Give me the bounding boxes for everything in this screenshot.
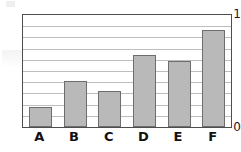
bar [98, 91, 121, 127]
bar [29, 107, 52, 127]
bars-group [23, 15, 231, 127]
scan-artifact [6, 1, 15, 7]
bar [168, 61, 191, 127]
x-axis-tick-label-a: A [22, 130, 57, 143]
x-axis-tick-label-d: D [126, 130, 161, 143]
x-axis-tick-label-c: C [91, 130, 126, 143]
plot-area [22, 14, 232, 128]
bar-chart: 1 0 ABCDEF [0, 0, 241, 152]
x-axis-tick-labels: ABCDEF [22, 130, 232, 150]
bar [133, 55, 156, 127]
x-axis-tick-label-f: F [195, 130, 230, 143]
x-axis-tick-label-e: E [161, 130, 196, 143]
bar [64, 81, 87, 127]
x-axis-tick-label-b: B [57, 130, 92, 143]
bar [202, 30, 225, 127]
